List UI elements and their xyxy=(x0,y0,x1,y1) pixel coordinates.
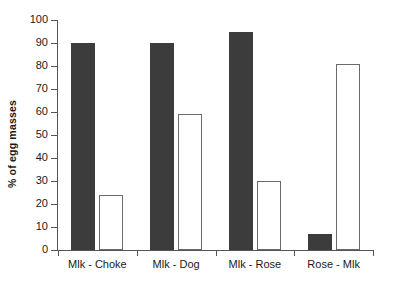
y-axis-tick-label: 100 xyxy=(8,14,48,25)
y-axis-tick xyxy=(51,181,58,182)
y-axis-tick xyxy=(51,112,58,113)
x-axis-group-label: Mlk - Dog xyxy=(137,258,216,270)
y-axis-tick-label: 40 xyxy=(8,152,48,163)
y-axis-tick-label: 50 xyxy=(8,129,48,140)
bar xyxy=(257,181,281,250)
bar xyxy=(150,43,174,250)
x-axis-tick xyxy=(373,250,374,256)
y-axis-tick xyxy=(51,227,58,228)
y-axis-tick-label: 20 xyxy=(8,198,48,209)
y-axis-tick-label: 60 xyxy=(8,106,48,117)
y-axis-tick xyxy=(51,158,58,159)
bar xyxy=(336,64,360,250)
bar-chart: % of egg masses 0102030405060708090100 M… xyxy=(0,0,400,288)
bar xyxy=(71,43,95,250)
y-axis-tick xyxy=(51,43,58,44)
bar xyxy=(178,114,202,250)
y-axis-tick-label: 80 xyxy=(8,60,48,71)
y-axis-tick xyxy=(51,66,58,67)
y-axis-tick-label: 90 xyxy=(8,37,48,48)
y-axis-tick xyxy=(51,250,58,251)
x-axis-group-label: Mlk - Rose xyxy=(216,258,295,270)
y-axis-tick-label: 0 xyxy=(8,244,48,255)
x-axis-group-label: Mlk - Choke xyxy=(58,258,137,270)
y-axis-tick xyxy=(51,89,58,90)
y-axis-tick-label: 10 xyxy=(8,221,48,232)
y-axis-tick xyxy=(51,135,58,136)
x-axis-tick xyxy=(137,250,138,256)
bar xyxy=(229,32,253,251)
bar xyxy=(308,234,332,250)
y-axis-tick-label: 30 xyxy=(8,175,48,186)
plot-area xyxy=(58,20,373,250)
y-axis-tick xyxy=(51,20,58,21)
y-axis-tick xyxy=(51,204,58,205)
x-axis-tick xyxy=(216,250,217,256)
y-axis-tick-label: 70 xyxy=(8,83,48,94)
x-axis-group-label: Rose - Mlk xyxy=(294,258,373,270)
x-axis-tick xyxy=(294,250,295,256)
bar xyxy=(99,195,123,250)
x-axis-tick xyxy=(58,250,59,256)
